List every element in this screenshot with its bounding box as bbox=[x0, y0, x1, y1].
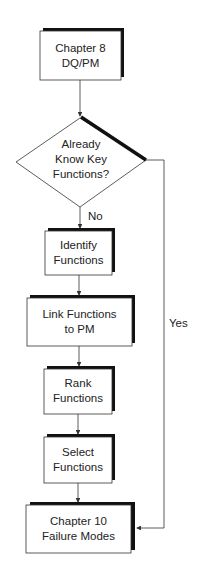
edge-arrow-yes bbox=[137, 160, 164, 528]
node-label: Know Key bbox=[55, 153, 107, 165]
node-label: Select bbox=[62, 446, 95, 458]
node-label: to PM bbox=[64, 323, 94, 335]
node-rank: Rank Functions bbox=[44, 366, 115, 414]
node-label: Functions bbox=[54, 254, 104, 266]
edge-label-no: No bbox=[88, 210, 103, 222]
node-chapter-10: Chapter 10 Failure Modes bbox=[26, 502, 135, 553]
node-label: DQ/PM bbox=[62, 57, 100, 69]
node-label: Functions? bbox=[53, 168, 109, 180]
node-chapter-8: Chapter 8 DQ/PM bbox=[40, 28, 124, 80]
node-label: Already bbox=[62, 138, 101, 150]
node-label: Functions bbox=[53, 392, 103, 404]
node-label: Link Functions bbox=[42, 308, 116, 320]
node-label: Rank bbox=[65, 377, 92, 389]
node-select: Select Functions bbox=[44, 434, 115, 483]
edge-label-yes: Yes bbox=[169, 317, 188, 329]
node-label: Failure Modes bbox=[42, 530, 115, 542]
node-label: Chapter 8 bbox=[55, 42, 106, 54]
node-label: Identify bbox=[60, 239, 97, 251]
node-link-functions: Link Functions to PM bbox=[27, 295, 135, 346]
flowchart: Chapter 8 DQ/PM Already Know Key Functio… bbox=[0, 0, 203, 575]
node-decision: Already Know Key Functions? bbox=[16, 117, 146, 207]
node-identify: Identify Functions bbox=[45, 228, 115, 275]
node-label: Chapter 10 bbox=[50, 515, 107, 527]
node-label: Functions bbox=[53, 461, 103, 473]
